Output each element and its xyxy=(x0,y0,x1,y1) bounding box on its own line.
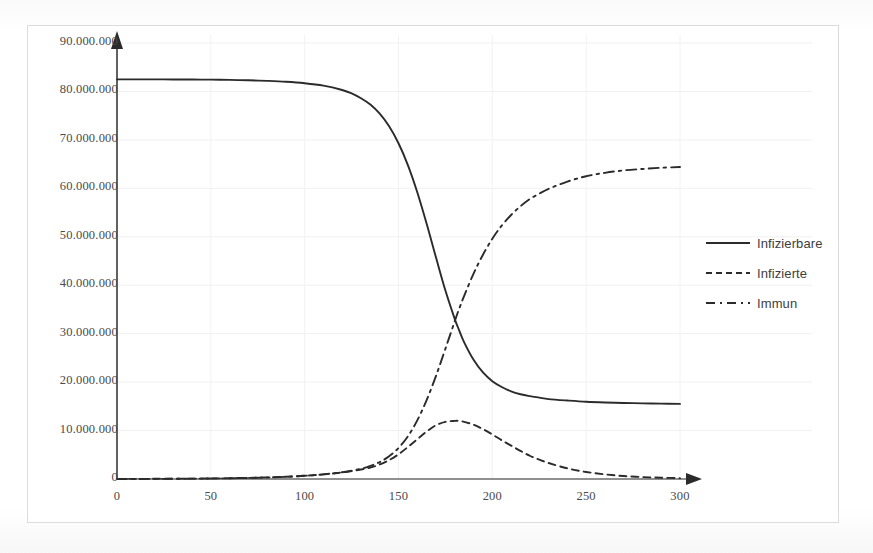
chart-legend: Infizierbare Infizierte Immun xyxy=(705,228,835,318)
legend-label-infizierbare: Infizierbare xyxy=(757,236,823,251)
legend-item-infizierte: Infizierte xyxy=(705,258,835,288)
x-tick-label: 300 xyxy=(650,489,710,504)
x-tick-label: 100 xyxy=(275,489,335,504)
legend-line-solid-icon xyxy=(705,236,751,250)
legend-item-immun: Immun xyxy=(705,288,835,318)
chart-page: 010.000.00020.000.00030.000.00040.000.00… xyxy=(0,0,873,553)
legend-item-infizierbare: Infizierbare xyxy=(705,228,835,258)
x-tick-label: 50 xyxy=(181,489,241,504)
legend-line-dashdot-icon xyxy=(705,296,751,310)
x-tick-label: 150 xyxy=(369,489,429,504)
x-tick-label: 250 xyxy=(556,489,616,504)
legend-label-immun: Immun xyxy=(757,296,797,311)
x-tick-label: 0 xyxy=(87,489,147,504)
x-tick-label: 200 xyxy=(462,489,522,504)
legend-line-dashed-icon xyxy=(705,266,751,280)
legend-label-infizierte: Infizierte xyxy=(757,266,807,281)
